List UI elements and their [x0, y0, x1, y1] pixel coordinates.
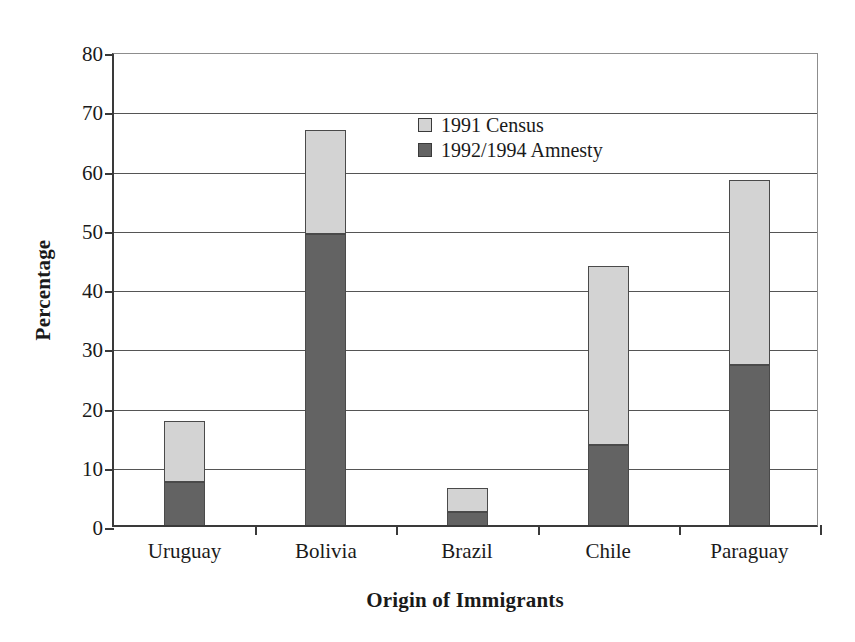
bar-segment-amnesty[interactable]	[729, 365, 770, 525]
chart-container: Percentage 01020304050607080UruguayBoliv…	[0, 0, 855, 642]
bar-stack[interactable]	[588, 266, 629, 526]
bar-segment-census[interactable]	[164, 421, 205, 482]
bar-segment-census[interactable]	[447, 488, 488, 512]
y-tick-label: 30	[82, 340, 114, 361]
gridline	[114, 232, 817, 233]
x-category-label: Uruguay	[148, 541, 221, 562]
bar-segment-amnesty[interactable]	[305, 234, 346, 526]
gridline	[114, 291, 817, 292]
y-tick-label: 20	[82, 399, 114, 420]
x-tick-mark	[538, 525, 540, 535]
gridline	[114, 350, 817, 351]
bar-segment-amnesty[interactable]	[164, 482, 205, 525]
x-tick-mark	[820, 525, 822, 535]
bar-segment-census[interactable]	[588, 266, 629, 446]
y-tick-label: 60	[82, 162, 114, 183]
legend-item[interactable]: 1992/1994 Amnesty	[418, 137, 603, 162]
y-axis-title: Percentage	[26, 53, 60, 527]
legend-swatch-icon	[418, 118, 432, 132]
y-tick-label: 40	[82, 281, 114, 302]
legend-swatch-icon	[418, 143, 432, 157]
y-tick-label: 80	[82, 44, 114, 65]
gridline	[114, 173, 817, 174]
bar-stack[interactable]	[164, 421, 205, 525]
y-tick-label: 10	[82, 458, 114, 479]
y-tick-label: 70	[82, 103, 114, 124]
bar-stack[interactable]	[305, 130, 346, 525]
bar-segment-census[interactable]	[305, 130, 346, 234]
x-category-label: Paraguay	[710, 541, 788, 562]
x-tick-mark	[255, 525, 257, 535]
bar-segment-amnesty[interactable]	[447, 512, 488, 525]
chart-legend: 1991 Census1992/1994 Amnesty	[418, 112, 603, 162]
x-category-label: Bolivia	[295, 541, 357, 562]
legend-label: 1991 Census	[441, 115, 544, 135]
x-category-label: Chile	[585, 541, 631, 562]
bar-stack[interactable]	[729, 180, 770, 525]
gridline	[114, 410, 817, 411]
x-axis-title: Origin of Immigrants	[112, 588, 818, 613]
y-tick-label: 0	[93, 518, 115, 539]
y-tick-label: 50	[82, 221, 114, 242]
bar-segment-amnesty[interactable]	[588, 445, 629, 525]
x-category-label: Brazil	[441, 541, 492, 562]
x-tick-mark	[679, 525, 681, 535]
bar-segment-census[interactable]	[729, 180, 770, 365]
bar-stack[interactable]	[447, 488, 488, 525]
legend-label: 1992/1994 Amnesty	[441, 140, 603, 160]
x-tick-mark	[396, 525, 398, 535]
legend-item[interactable]: 1991 Census	[418, 112, 603, 137]
gridline	[114, 469, 817, 470]
